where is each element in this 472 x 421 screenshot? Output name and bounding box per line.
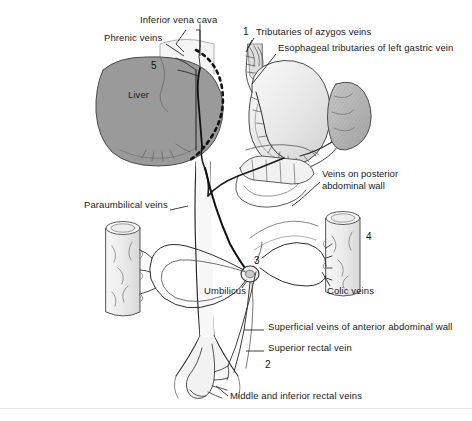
label-paraumbilical-veins: Paraumbilical veins: [84, 199, 168, 210]
marker-2: 2: [265, 359, 271, 370]
marker-4: 4: [366, 231, 372, 242]
label-middle-inferior-rectal-veins: Middle and inferior rectal veins: [230, 390, 362, 401]
label-phrenic-veins: Phrenic veins: [104, 32, 162, 43]
leader-paraumbilical: [170, 206, 188, 210]
marker-1: 1: [243, 26, 249, 37]
leader-rectal: [216, 386, 228, 396]
label-liver: Liver: [128, 89, 149, 100]
marker-3: 3: [254, 255, 260, 266]
label-superficial-veins-anterior-wall: Superficial veins of anterior abdominal …: [268, 321, 452, 332]
liver: [96, 57, 223, 166]
label-inferior-vena-cava: Inferior vena cava: [140, 14, 217, 25]
label-superior-rectal-vein: Superior rectal vein: [268, 342, 352, 353]
marker-5: 5: [151, 60, 157, 71]
label-veins-posterior-abdominal-wall: Veins on posterior abdominal wall: [322, 168, 398, 191]
label-umbilicus: Umbilicus: [204, 285, 246, 296]
figure-canvas: Inferior vena cava Phrenic veins Tributa…: [0, 0, 472, 421]
stomach: [249, 60, 331, 166]
label-esophageal-left-gastric: Esophageal tributaries of left gastric v…: [278, 42, 453, 53]
umbilicus-inner: [246, 270, 255, 278]
colic-vein-lower-arcade: [260, 268, 326, 286]
transverse-colon: [250, 221, 318, 238]
small-intestine-inner-loop: [244, 184, 298, 196]
transverse-colon-inner: [254, 236, 316, 250]
colic-vein-upper-arcade: [262, 243, 326, 266]
label-colic-veins: Colic veins: [327, 285, 374, 296]
anatomy-illustration: [0, 0, 472, 421]
superficial-vein-descending-2: [246, 282, 253, 368]
abdominal-wall-block-left: [106, 222, 143, 317]
paraumbilical-to-wall-left: [140, 250, 156, 294]
label-tributaries-azygos: Tributaries of azygos veins: [256, 26, 371, 37]
